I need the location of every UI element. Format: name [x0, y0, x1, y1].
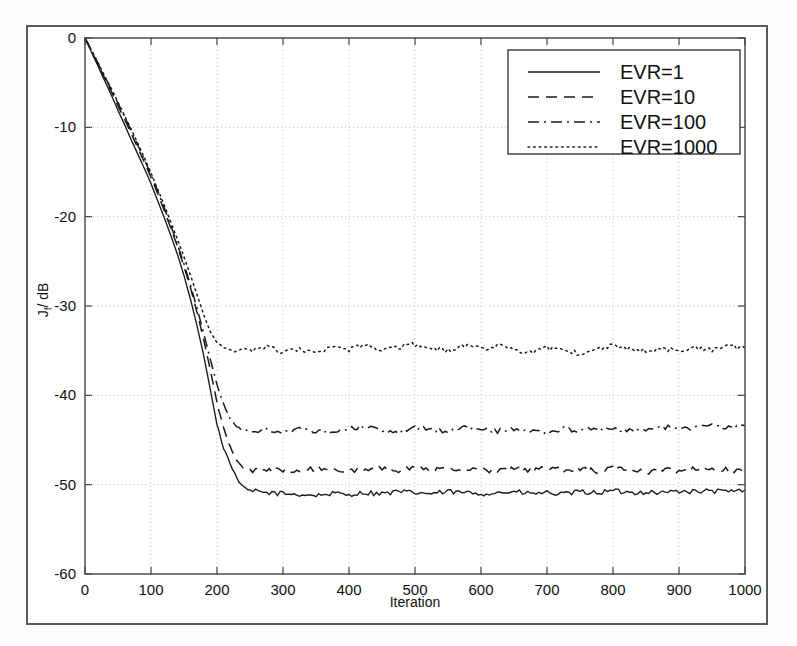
- line-chart: 01002003004005006007008009001000 0-10-20…: [0, 0, 797, 646]
- y-tick-label: -30: [54, 297, 76, 314]
- legend-label-evr-1000: EVR=1000: [620, 136, 717, 158]
- x-tick-label: 100: [138, 581, 163, 598]
- x-tick-label: 700: [534, 581, 559, 598]
- y-tick-label: -60: [54, 565, 76, 582]
- y-tick-label: 0: [68, 29, 76, 46]
- y-axis-title: Jf/ dB: [35, 283, 54, 318]
- y-axis-title-base: J: [35, 310, 51, 317]
- x-tick-label: 300: [270, 581, 295, 598]
- legend-label-evr-100: EVR=100: [620, 111, 706, 133]
- y-tick-label: -40: [54, 386, 76, 403]
- x-tick-label: 900: [666, 581, 691, 598]
- chart-legend[interactable]: EVR=1EVR=10EVR=100EVR=1000: [508, 50, 740, 158]
- y-tick-label: -50: [54, 476, 76, 493]
- x-tick-label: 800: [600, 581, 625, 598]
- y-tick-label: -20: [54, 208, 76, 225]
- y-axis-title-unit: / dB: [35, 283, 51, 308]
- y-tick-label: -10: [54, 118, 76, 135]
- x-tick-label: 0: [81, 581, 89, 598]
- x-tick-label: 600: [468, 581, 493, 598]
- svg-text:Jf/ dB: Jf/ dB: [35, 283, 54, 318]
- legend-label-evr-10: EVR=10: [620, 86, 695, 108]
- x-tick-label: 400: [336, 581, 361, 598]
- x-tick-label: 1000: [728, 581, 761, 598]
- x-axis-title: Iteration: [390, 594, 441, 610]
- figure-root: 01002003004005006007008009001000 0-10-20…: [0, 0, 797, 646]
- x-tick-label: 200: [204, 581, 229, 598]
- legend-label-evr-1: EVR=1: [620, 61, 684, 83]
